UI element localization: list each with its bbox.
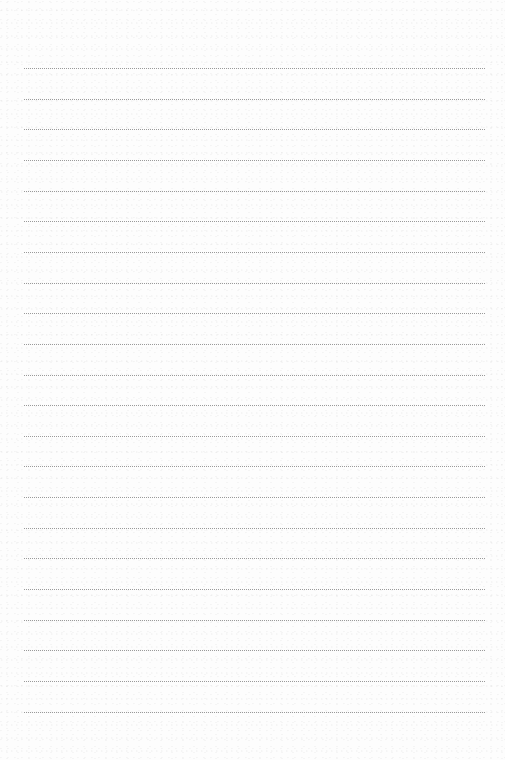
ruled-line [24, 283, 485, 284]
ruled-line [24, 589, 485, 590]
ruled-line [24, 650, 485, 651]
ruled-line [24, 252, 485, 253]
ruled-line [24, 191, 485, 192]
ruled-line [24, 221, 485, 222]
ruled-line [24, 405, 485, 406]
ruled-line [24, 375, 485, 376]
ruled-line [24, 129, 485, 130]
ruled-line [24, 558, 485, 559]
lined-paper-page [0, 0, 505, 760]
ruled-line [24, 99, 485, 100]
ruled-line [24, 344, 485, 345]
ruled-line [24, 681, 485, 682]
ruled-line [24, 620, 485, 621]
ruled-line [24, 160, 485, 161]
ruled-line [24, 466, 485, 467]
ruled-line [24, 712, 485, 713]
ruled-line [24, 68, 485, 69]
ruled-line [24, 497, 485, 498]
ruled-line [24, 313, 485, 314]
ruled-line [24, 436, 485, 437]
ruled-line [24, 528, 485, 529]
